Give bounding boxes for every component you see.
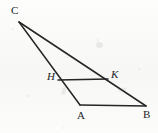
- geometry-figure: CABHK: [0, 0, 158, 133]
- segment-AB: [80, 105, 146, 106]
- vertex-label-h: H: [47, 71, 55, 82]
- vertex-label-k: K: [111, 69, 118, 80]
- vertex-label-a: A: [77, 110, 85, 121]
- vertex-label-c: C: [11, 5, 18, 16]
- segment-CA: [19, 22, 80, 105]
- segment-CB: [19, 22, 146, 106]
- vertex-label-b: B: [143, 109, 150, 120]
- segment-HK: [58, 79, 108, 80]
- segments-group: [19, 22, 146, 106]
